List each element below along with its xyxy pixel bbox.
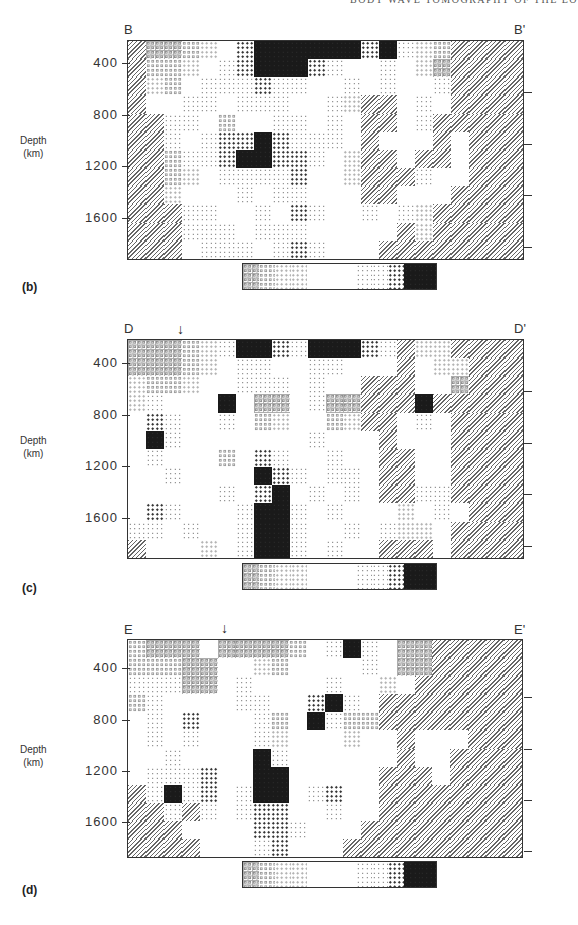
tomography-cell: [253, 712, 271, 730]
tomography-cell: [253, 767, 271, 785]
tomography-cell: [505, 114, 523, 132]
tomography-cell: [450, 785, 468, 803]
tomography-cell: [433, 431, 451, 449]
tomography-cell: [469, 340, 487, 358]
tomography-cell: [182, 41, 200, 59]
tomography-cell: [146, 839, 164, 857]
tomography-cell: [236, 132, 254, 150]
tomography-cell: [379, 413, 397, 431]
tomography-cell: [379, 132, 397, 150]
tomography-cell: [468, 676, 486, 694]
tomography-cell: [450, 767, 468, 785]
tomography-cell: [415, 839, 433, 857]
tomography-cell: [505, 77, 523, 95]
tomography-cell: [164, 132, 182, 150]
tomography-cell: [308, 413, 326, 431]
tomography-cell: [146, 150, 164, 168]
tomography-cell: [289, 658, 307, 676]
tomography-cell: [254, 394, 272, 412]
colorbar-swatch: [259, 564, 275, 589]
tomography-cell: [487, 95, 505, 113]
tomography-cell: [504, 730, 522, 748]
tomography-cell: [361, 59, 379, 77]
tomography-cell: [146, 204, 164, 222]
tomography-cell: [307, 694, 325, 712]
tomography-cell: [433, 503, 451, 521]
tomography-cell: [469, 522, 487, 540]
tomography-cell: [326, 394, 344, 412]
tomography-cell: [308, 223, 326, 241]
tomography-cell: [253, 658, 271, 676]
tomography-cell: [469, 77, 487, 95]
colorbar-swatch: [259, 862, 275, 887]
tomography-cell: [469, 114, 487, 132]
tomography-cell: [325, 821, 343, 839]
tomography-cell: [200, 413, 218, 431]
tomography-cell: [290, 413, 308, 431]
tomography-cell: [182, 394, 200, 412]
tomography-cell: [505, 413, 523, 431]
tomography-cell: [326, 449, 344, 467]
tomography-cell: [254, 186, 272, 204]
section-start-label: E: [124, 622, 133, 637]
tomography-cell: [361, 449, 379, 467]
tomography-cell: [361, 712, 379, 730]
tomography-cell: [128, 41, 146, 59]
tomography-cell: [432, 821, 450, 839]
tomography-cell: [343, 730, 361, 748]
tomography-cell: [289, 640, 307, 658]
tomography-cell: [487, 168, 505, 186]
tomography-cell: [505, 358, 523, 376]
tomography-cell: [325, 676, 343, 694]
tomography-cell: [235, 803, 253, 821]
tomography-cell: [379, 431, 397, 449]
tomography-cell: [272, 223, 290, 241]
tomography-cell: [397, 168, 415, 186]
depth-axis-label: Depth(km): [20, 134, 47, 160]
tomography-cell: [397, 449, 415, 467]
right-tick: [524, 546, 532, 547]
tomography-cell: [308, 431, 326, 449]
colorbar-swatch: [339, 564, 355, 589]
tomography-cell: [469, 394, 487, 412]
tomography-cell: [451, 340, 469, 358]
tomography-cell: [450, 640, 468, 658]
tomography-cell: [308, 485, 326, 503]
tomography-cell: [271, 712, 289, 730]
tomography-cell: [182, 114, 200, 132]
tomography-cell: [415, 41, 433, 59]
tomography-cell: [326, 485, 344, 503]
right-tick: [524, 443, 532, 444]
tomography-cell: [451, 186, 469, 204]
tomography-cell: [343, 749, 361, 767]
tomography-cell: [343, 358, 361, 376]
tomography-cell: [182, 59, 200, 77]
tomography-cell: [272, 132, 290, 150]
tomography-cell: [146, 77, 164, 95]
tomography-cell: [379, 503, 397, 521]
tomography-cell: [415, 95, 433, 113]
tomography-cell: [182, 676, 200, 694]
tomography-cell: [379, 485, 397, 503]
tomography-cell: [415, 749, 433, 767]
tomography-cell: [164, 376, 182, 394]
tomography-cell: [450, 839, 468, 857]
tomography-cell: [505, 394, 523, 412]
tomography-cell: [200, 358, 218, 376]
tomography-cell: [200, 449, 218, 467]
section-start-label: B: [124, 22, 133, 37]
right-tick: [524, 851, 532, 852]
tomography-cell: [218, 376, 236, 394]
tomography-cell: [379, 241, 397, 259]
tomography-cell: [146, 449, 164, 467]
colorbar-swatch: [420, 564, 436, 589]
tomography-cell: [361, 223, 379, 241]
tomography-cell: [146, 59, 164, 77]
tomography-cell: [253, 785, 271, 803]
tomography-cell: [235, 676, 253, 694]
tomography-cell: [486, 821, 504, 839]
tomography-cell: [468, 694, 486, 712]
tomography-cell: [164, 730, 182, 748]
tomography-cell: [290, 168, 308, 186]
tomography-cell: [469, 431, 487, 449]
